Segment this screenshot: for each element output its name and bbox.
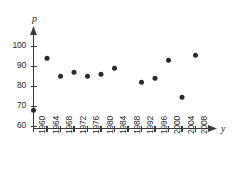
y-axis-arrowhead xyxy=(30,26,37,35)
y-tick-label: 90 xyxy=(4,61,26,70)
x-tick-label: 2004 xyxy=(187,116,196,134)
scatter-plot-figure: 60708090100 1960196419681972197619801984… xyxy=(0,0,237,171)
data-point xyxy=(112,66,117,71)
data-point xyxy=(45,56,50,61)
data-points-group xyxy=(31,53,198,113)
plot-canvas xyxy=(0,0,237,171)
x-axis-title: y xyxy=(221,123,225,134)
data-point xyxy=(166,58,171,63)
x-tick-label: 1960 xyxy=(38,116,47,134)
data-point xyxy=(99,72,104,77)
data-point xyxy=(85,74,90,79)
x-tick-label: 1984 xyxy=(119,116,128,134)
data-point xyxy=(153,76,158,81)
x-tick-label: 1972 xyxy=(79,116,88,134)
data-point xyxy=(58,74,63,79)
x-tick-label: 2000 xyxy=(173,116,182,134)
data-point xyxy=(72,70,77,75)
y-tick-label: 80 xyxy=(4,81,26,90)
x-tick-label: 1964 xyxy=(52,116,61,134)
y-tick-label: 100 xyxy=(4,41,26,50)
x-tick-label: 1996 xyxy=(160,116,169,134)
y-axis-title: p xyxy=(32,13,37,24)
x-tick-label: 2008 xyxy=(200,116,209,134)
y-tick-label: 60 xyxy=(4,121,26,130)
y-tick-label: 70 xyxy=(4,101,26,110)
x-tick-label: 1976 xyxy=(92,116,101,134)
data-point xyxy=(139,80,144,85)
x-tick-label: 1992 xyxy=(146,116,155,134)
data-point xyxy=(180,95,185,100)
data-point xyxy=(31,108,36,113)
x-tick-label: 1988 xyxy=(133,116,142,134)
x-tick-label: 1980 xyxy=(106,116,115,134)
x-tick-label: 1968 xyxy=(65,116,74,134)
data-point xyxy=(193,53,198,58)
x-axis-arrowhead xyxy=(208,125,217,132)
